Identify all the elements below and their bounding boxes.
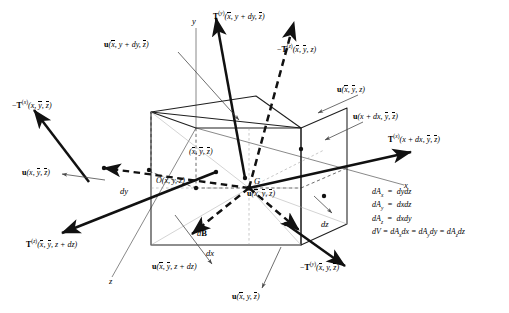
dot-face-x-left (147, 168, 151, 172)
axis-label-y: y (192, 16, 196, 26)
label-traction-z-plus: T(z)(x, y, z + dz) (26, 239, 77, 249)
node-dots (102, 147, 326, 226)
equation-dV: dV = dAxdx = dAydy = dAzdz (372, 226, 465, 239)
disp-arrow-x-plus (325, 122, 363, 140)
axis-label-z: z (109, 276, 112, 286)
equation-dAy: dAy = dxdz (372, 199, 465, 212)
disp-arrow-y-plus (178, 52, 239, 120)
traction-arrows-solid (34, 18, 411, 266)
diagram-vector-graphics (0, 0, 509, 313)
equation-block: dAx = dydz dAy = dxdz dAz = dxdy dV = dA… (372, 186, 465, 240)
traction-arrow-x-plus (249, 152, 411, 188)
dot-face-z-minus (299, 147, 303, 151)
mid-depth (249, 150, 324, 188)
dot-face-y-plus (243, 176, 247, 180)
label-centroid-G: G (254, 177, 260, 186)
label-origin-O: O(x, y, z) (156, 177, 185, 185)
label-displacement-z-plus: u(x, y, z + dz) (152, 263, 197, 271)
equation-dAx: dAx = dydz (372, 186, 465, 199)
label-traction-x-plus: T(x)(x + dx, y, z) (388, 134, 440, 144)
label-displacement-y-plus: u(x, y + dy, z) (104, 41, 149, 49)
disp-arrow-y-minus (262, 247, 281, 288)
label-displacement-center: u(x, y, z) (247, 190, 275, 198)
label-centroid-coords: (x, y, z) (189, 148, 213, 156)
label-body-force-dB: dB (197, 229, 207, 238)
label-dim-dx: dx (206, 249, 214, 258)
label-traction-y-plus: T(y)(x, y + dy, z) (213, 11, 265, 21)
dot-face-y-minus (284, 222, 288, 226)
label-displacement-z-minus: u(x, y, z) (337, 86, 365, 94)
figure-canvas: y x z T(y)(x, y + dy, z) −T(z)(x, y, z) … (0, 0, 509, 313)
axis-z (112, 128, 196, 277)
label-traction-z-minus: −T(z)(x, y, z) (277, 44, 316, 54)
dot-face-x-minus (102, 166, 106, 170)
dot-face-x-plus (322, 194, 326, 198)
label-displacement-x-plus: u(x + dx, y, z) (353, 113, 398, 121)
label-traction-x-minus: −T(x)(x, y, z) (12, 100, 52, 110)
dot-origin-O (194, 186, 198, 190)
disp-arrow-center (314, 196, 332, 213)
label-traction-y-minus: −T(y)(x, y, z) (300, 262, 339, 272)
label-dim-dy: dy (120, 187, 128, 196)
equation-dAz: dAz = dxdy (372, 213, 465, 226)
label-displacement-y-minus: u(x, y, z) (232, 293, 260, 301)
label-dim-dz: dz (321, 220, 329, 229)
cube-top-face (151, 96, 301, 128)
disp-arrow-z-minus (318, 95, 358, 113)
label-displacement-x-minus: u(x, y, z) (22, 169, 50, 177)
dot-face-z-plus (214, 170, 218, 174)
